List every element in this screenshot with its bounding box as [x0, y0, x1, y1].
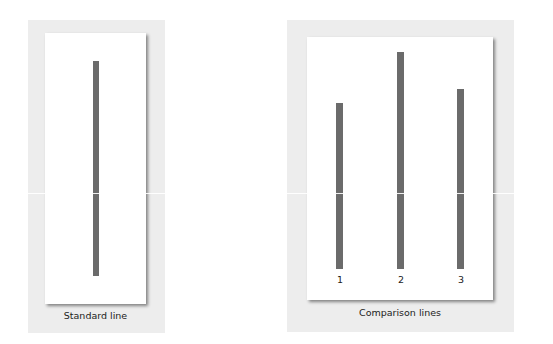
comparison-line-3: [457, 89, 464, 269]
comparison-line-3-label: 3: [451, 274, 471, 285]
comparison-line-1: [336, 103, 343, 269]
comparison-line-2: [397, 52, 404, 269]
comparison-line-1-label: 1: [330, 274, 350, 285]
comparison-lines-caption: Comparison lines: [307, 307, 493, 318]
scan-seam: [28, 193, 514, 194]
standard-line: [93, 61, 99, 276]
comparison-line-2-label: 2: [391, 274, 411, 285]
standard-line-caption: Standard line: [45, 310, 146, 321]
